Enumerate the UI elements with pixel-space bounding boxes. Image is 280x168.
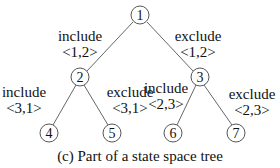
edge-label-1-2: include <1,2> [50,28,110,60]
edge-label-2-4: include <3,1> [0,84,52,116]
edge-pair: <1,2> [168,44,228,60]
edge-label-3-6: include <2,3> [138,80,194,112]
edge-action: include [0,84,52,100]
edge-pair: <2,3> [222,102,280,118]
edge-action: include [50,28,110,44]
node-1-label: 1 [137,8,144,23]
node-4-label: 4 [46,126,53,141]
node-3-label: 3 [197,70,204,85]
edge-action: exclude [222,86,280,102]
edge-label-3-7: exclude <2,3> [222,86,280,118]
edge-2-4 [53,85,76,125]
figure-caption: (c) Part of a state space tree [0,148,280,165]
edge-action: include [138,80,194,96]
node-5-label: 5 [109,126,116,141]
edge-pair: <3,1> [0,100,52,116]
edge-label-1-3: exclude <1,2> [168,28,228,60]
edge-pair: <1,2> [50,44,110,60]
node-2-label: 2 [77,70,84,85]
edge-pair: <2,3> [138,96,194,112]
node-7-label: 7 [233,126,240,141]
node-6-label: 6 [170,126,177,141]
edge-action: exclude [168,28,228,44]
